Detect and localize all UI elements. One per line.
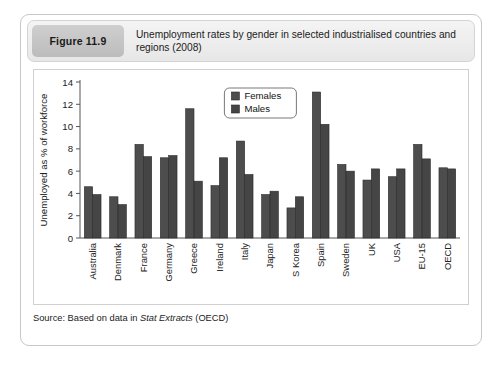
chart-legend: FemalesMales [224, 88, 296, 118]
y-axis-ticks: 02468101214 [62, 77, 80, 244]
svg-text:10: 10 [62, 121, 73, 132]
svg-text:France: France [138, 243, 149, 272]
source-publication: Stat Extracts [140, 313, 193, 323]
svg-text:Denmark: Denmark [112, 243, 123, 281]
svg-text:Greece: Greece [188, 243, 199, 274]
figure-source: Source: Based on data in Stat Extracts (… [33, 313, 469, 323]
source-prefix: Source: Based on data in [33, 313, 140, 323]
svg-text:Spain: Spain [315, 243, 326, 267]
svg-text:Germany: Germany [163, 243, 174, 282]
chart-plot-panel: Unemployed as % of workforce 02468101214… [33, 69, 469, 305]
svg-text:2: 2 [68, 210, 73, 221]
svg-text:OECD: OECD [442, 243, 453, 270]
svg-text:6: 6 [68, 166, 73, 177]
svg-text:12: 12 [62, 99, 73, 110]
svg-text:Japan: Japan [264, 243, 275, 269]
figure-title: Unemployment rates by gender in selected… [124, 21, 474, 61]
svg-text:4: 4 [68, 188, 74, 199]
source-suffix: (OECD) [193, 313, 229, 323]
y-axis-title: Unemployed as % of workforce [38, 94, 49, 227]
svg-text:Unemployed as % of workforce: Unemployed as % of workforce [38, 94, 49, 227]
svg-text:14: 14 [62, 77, 73, 88]
svg-text:EU-15: EU-15 [416, 243, 427, 270]
figure-header: Figure 11.9 Unemployment rates by gender… [27, 20, 475, 62]
svg-text:Ireland: Ireland [214, 243, 225, 272]
svg-text:0: 0 [68, 233, 73, 244]
svg-text:USA: USA [391, 242, 402, 262]
x-axis-ticks: AustraliaDenmarkFranceGermanyGreeceIrela… [87, 242, 453, 281]
svg-text:S Korea: S Korea [290, 242, 301, 277]
figure-number-badge: Figure 11.9 [32, 25, 124, 57]
svg-text:Males: Males [244, 103, 270, 114]
svg-text:UK: UK [366, 242, 377, 256]
svg-text:8: 8 [68, 143, 73, 154]
svg-text:Sweden: Sweden [340, 243, 351, 277]
svg-text:Italy: Italy [239, 243, 250, 261]
bar-chart: Unemployed as % of workforce 02468101214… [34, 70, 468, 304]
figure-card: Figure 11.9 Unemployment rates by gender… [20, 14, 482, 346]
svg-text:Australia: Australia [87, 242, 98, 279]
svg-text:Females: Females [244, 90, 281, 101]
